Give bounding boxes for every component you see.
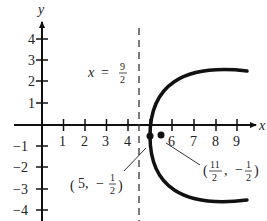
svg-text:−3: −3 [13, 182, 28, 197]
svg-text:): ) [118, 178, 123, 194]
svg-text:1: 1 [110, 172, 115, 183]
svg-text:1: 1 [246, 159, 251, 170]
svg-text:1: 1 [28, 96, 35, 111]
svg-text:11: 11 [210, 159, 220, 170]
svg-text:−4: −4 [13, 203, 28, 218]
svg-text:7: 7 [190, 134, 197, 149]
y-axis-label: y [36, 2, 45, 17]
svg-text:3: 3 [102, 134, 109, 149]
vertex-label: ( 5, − 1 2 ) [70, 172, 123, 196]
svg-text:1: 1 [59, 134, 66, 149]
vertex-point [147, 133, 154, 140]
svg-text:4: 4 [28, 32, 35, 47]
svg-text:x: x [87, 65, 95, 80]
svg-text:2: 2 [110, 185, 115, 196]
svg-text:=: = [101, 65, 109, 80]
svg-text:2: 2 [81, 134, 88, 149]
svg-text:(: ( [70, 178, 75, 194]
directrix-label: x = 9 2 [87, 61, 127, 85]
svg-text:4: 4 [124, 134, 131, 149]
svg-text:2: 2 [120, 74, 125, 85]
svg-text:2: 2 [212, 172, 217, 183]
focus-point [158, 132, 165, 139]
parabola-diagram: x y 1 2 3 4 6 7 8 9 4 3 2 1 [0, 0, 267, 221]
svg-text:5,: 5, [78, 176, 89, 191]
svg-text:−: − [235, 162, 243, 177]
svg-text:−: − [96, 176, 104, 191]
svg-text:3: 3 [28, 53, 35, 68]
svg-text:2: 2 [246, 172, 251, 183]
svg-text:−1: −1 [13, 139, 28, 154]
vertex-leader [124, 148, 146, 171]
svg-text:(: ( [203, 163, 208, 179]
x-axis-label: x [258, 118, 266, 133]
svg-text:): ) [254, 163, 259, 179]
svg-text:9: 9 [233, 134, 240, 149]
svg-text:,: , [224, 163, 228, 178]
svg-text:2: 2 [28, 74, 35, 89]
svg-text:8: 8 [212, 134, 219, 149]
svg-text:−2: −2 [13, 160, 28, 175]
svg-text:9: 9 [120, 61, 125, 72]
focus-label: ( 11 2 , − 1 2 ) [203, 159, 259, 183]
